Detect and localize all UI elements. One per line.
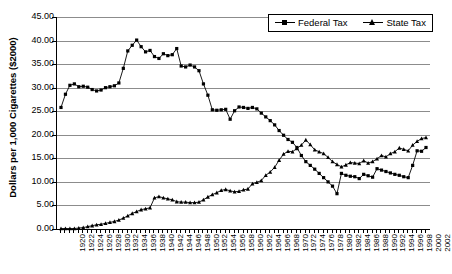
y-tick-label: 0.00 (2, 224, 54, 233)
x-tick-mark-minor (73, 230, 74, 233)
data-point (121, 216, 125, 220)
data-point (201, 198, 205, 202)
y-tick-label: 5.00 (2, 200, 54, 209)
x-tick-mark-minor (349, 230, 350, 233)
x-tick-mark-minor (216, 230, 217, 233)
data-point (157, 194, 161, 198)
data-point (282, 134, 285, 137)
data-point (229, 118, 232, 121)
data-point (242, 106, 245, 109)
x-tick-mark-minor (82, 230, 83, 233)
data-point (273, 123, 276, 126)
x-tick-mark-minor (358, 230, 359, 233)
data-point (166, 54, 169, 57)
data-point (269, 119, 272, 122)
data-point (77, 85, 80, 88)
x-tick-label: 2002 (444, 234, 452, 272)
data-point (344, 174, 347, 177)
data-point (367, 174, 370, 177)
x-tick-mark (149, 230, 150, 233)
x-tick-mark (113, 230, 114, 233)
data-point (104, 86, 107, 89)
data-point (349, 175, 352, 178)
x-tick-mark (256, 230, 257, 233)
x-axis-tick-labels: 1920192219241926192819301932193419361938… (56, 230, 429, 274)
data-point (264, 115, 267, 118)
data-point (340, 172, 343, 175)
data-point (397, 146, 401, 150)
data-point (402, 175, 405, 178)
data-point (415, 139, 419, 143)
x-tick-mark (363, 230, 364, 233)
x-tick-mark (185, 230, 186, 233)
y-tick-label: 30.00 (2, 83, 54, 92)
x-tick-mark (220, 230, 221, 233)
data-point (362, 159, 366, 163)
data-point (424, 136, 428, 140)
x-tick-mark-minor (323, 230, 324, 233)
x-tick-mark (96, 230, 97, 233)
data-point (86, 86, 89, 89)
data-point (122, 67, 125, 70)
x-tick-mark (69, 230, 70, 233)
data-point (375, 167, 378, 170)
x-tick-mark-minor (198, 230, 199, 233)
x-tick-mark-minor (136, 230, 137, 233)
x-tick-mark-minor (207, 230, 208, 233)
x-tick-mark (274, 230, 275, 233)
data-point (371, 160, 375, 164)
x-tick-mark-minor (91, 230, 92, 233)
series-federal-tax (59, 38, 427, 195)
data-point (224, 108, 227, 111)
data-point (353, 175, 356, 178)
x-tick-label: 2000 (435, 234, 443, 272)
x-tick-mark-minor (367, 230, 368, 233)
x-tick-mark-minor (127, 230, 128, 233)
data-point (162, 52, 165, 55)
x-tick-mark (354, 230, 355, 233)
x-tick-mark (158, 230, 159, 233)
x-tick-mark (389, 230, 390, 233)
data-point (171, 53, 174, 56)
data-point (206, 94, 209, 97)
data-point (331, 185, 334, 188)
data-point (424, 146, 427, 149)
data-point (309, 164, 312, 167)
data-point (95, 89, 98, 92)
x-tick-mark-minor (243, 230, 244, 233)
data-point (157, 57, 160, 60)
x-tick-mark-minor (296, 230, 297, 233)
legend-item-federal-tax: Federal Tax (275, 17, 347, 28)
x-tick-mark (336, 230, 337, 233)
data-point (126, 214, 130, 218)
data-point (246, 107, 249, 110)
x-tick-mark (167, 230, 168, 233)
data-point (384, 170, 387, 173)
x-tick-mark-minor (153, 230, 154, 233)
x-tick-mark (380, 230, 381, 233)
data-point (99, 88, 102, 91)
data-point (251, 106, 254, 109)
data-point (362, 173, 365, 176)
legend-item-state-tax: State Tax (363, 17, 425, 28)
data-point (117, 81, 120, 84)
data-point (326, 180, 329, 183)
data-point (255, 107, 258, 110)
data-point (358, 177, 361, 180)
x-tick-mark (238, 230, 239, 233)
x-tick-mark (211, 230, 212, 233)
data-point (282, 152, 286, 156)
x-tick-mark (194, 230, 195, 233)
x-tick-mark-minor (162, 230, 163, 233)
data-point (131, 44, 134, 47)
data-point (184, 65, 187, 68)
data-point (233, 109, 236, 112)
x-tick-mark (318, 230, 319, 233)
y-tick-label: 45.00 (2, 12, 54, 21)
x-tick-mark (60, 230, 61, 233)
x-tick-mark (202, 230, 203, 233)
x-tick-mark-minor (287, 230, 288, 233)
data-point (180, 64, 183, 67)
series-line (61, 138, 426, 229)
data-point (300, 154, 303, 157)
